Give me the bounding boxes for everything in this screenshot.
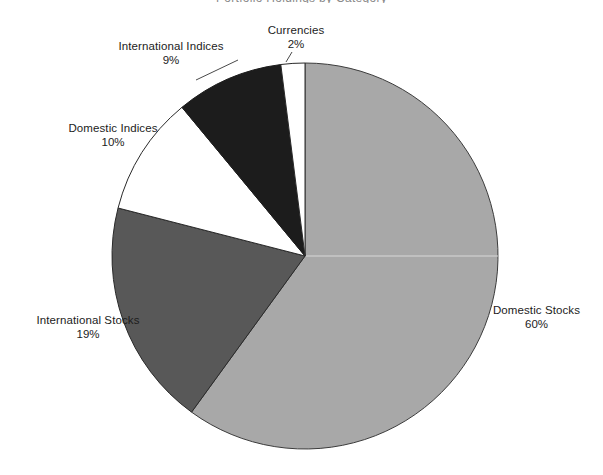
slice-label-currencies-name: Currencies [236,23,356,37]
slice-label-currencies-percent: 2% [236,37,356,51]
pie-chart-figure: Portfolio Holdings by Category Currencie… [0,0,603,475]
slice-label-domestic-indices-name: Domestic Indices [38,121,188,135]
leader-line-currencies [286,52,292,62]
slice-label-domestic-stocks: Domestic Stocks 60% [470,303,603,331]
slice-label-international-indices-percent: 9% [95,53,247,67]
slice-label-international-indices-name: International Indices [95,39,247,53]
slice-label-international-indices: International Indices 9% [95,39,247,67]
pie-chart-canvas [0,0,603,475]
slice-label-domestic-stocks-percent: 60% [470,317,603,331]
slice-label-international-stocks-percent: 19% [8,327,168,341]
slice-label-domestic-indices: Domestic Indices 10% [38,121,188,149]
slice-label-international-stocks: International Stocks 19% [8,313,168,341]
slice-label-domestic-indices-percent: 10% [38,135,188,149]
slice-label-international-stocks-name: International Stocks [8,313,168,327]
slice-label-currencies: Currencies 2% [236,23,356,51]
slice-label-domestic-stocks-name: Domestic Stocks [470,303,603,317]
